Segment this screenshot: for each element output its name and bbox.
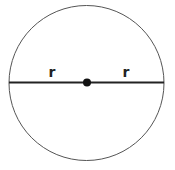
- right-radius-label: r: [123, 64, 130, 80]
- left-radius-label: r: [49, 64, 56, 80]
- center-point: [83, 79, 91, 87]
- circle-diagram: r r: [0, 0, 175, 170]
